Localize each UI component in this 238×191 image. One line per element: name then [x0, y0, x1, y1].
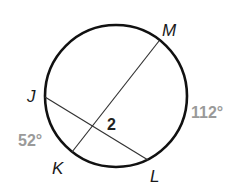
circle-diagram: M J K L 2 112° 52° [0, 0, 238, 191]
arc-jk-measure: 52° [18, 132, 42, 149]
arc-ml-measure: 112° [191, 104, 223, 121]
point-label-l: L [150, 167, 159, 186]
point-label-k: K [52, 159, 64, 178]
angle-2-label: 2 [107, 116, 116, 133]
chord-jl [45, 97, 148, 160]
chord-mk [72, 41, 159, 152]
point-label-j: J [26, 87, 36, 106]
point-label-m: M [162, 21, 177, 40]
